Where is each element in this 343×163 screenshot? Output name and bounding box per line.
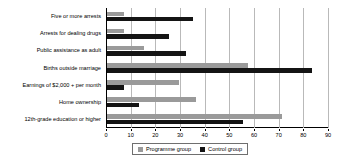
tick-label-0: 0 (96, 131, 116, 139)
bar-control (107, 103, 139, 108)
tick-label-30: 30 (170, 131, 190, 139)
category-label: Births outside marriage (0, 65, 101, 72)
bar-group (106, 77, 328, 94)
bar-control (107, 85, 124, 90)
category-label: 12th-grade education or higher (0, 116, 101, 123)
gridline-90 (328, 8, 329, 128)
category-label: Home ownership (0, 99, 101, 106)
bar-group (106, 25, 328, 42)
category-label: Arrests for dealing drugs (0, 30, 101, 37)
tick-label-50: 50 (219, 131, 239, 139)
legend-item-control: Control group (200, 146, 242, 153)
bar-programme (107, 46, 144, 51)
category-label: Earnings of $2,000 + per month (0, 82, 101, 89)
tick-label-10: 10 (121, 131, 141, 139)
tick-label-70: 70 (269, 131, 289, 139)
category-label: Public assistance as adult (0, 47, 101, 54)
bar-programme (107, 114, 282, 119)
bar-control (107, 120, 243, 125)
bar-group (106, 8, 328, 25)
category-label: Five or more arrests (0, 13, 101, 20)
chart-legend: Programme groupControl group (132, 143, 248, 155)
bar-control (107, 34, 169, 39)
tick-label-80: 80 (293, 131, 313, 139)
x-axis-ticks: 0102030405060708090 (106, 129, 328, 139)
bar-programme (107, 97, 196, 102)
tick-label-20: 20 (145, 131, 165, 139)
bar-programme (107, 29, 124, 34)
bar-group (106, 111, 328, 128)
bar-programme (107, 12, 124, 17)
legend-label: Control group (208, 146, 242, 153)
category-label-column: Five or more arrestsArrests for dealing … (0, 8, 104, 128)
bar-programme (107, 80, 179, 85)
tick-label-60: 60 (244, 131, 264, 139)
legend-swatch-icon (200, 147, 205, 152)
tick-label-40: 40 (195, 131, 215, 139)
bar-group (106, 59, 328, 76)
bar-control (107, 17, 193, 22)
bar-group (106, 94, 328, 111)
bar-control (107, 51, 186, 56)
legend-swatch-icon (138, 147, 143, 152)
tick-label-90: 90 (318, 131, 338, 139)
plot-area (106, 8, 328, 128)
legend-item-programme: Programme group (138, 146, 191, 153)
bar-programme (107, 63, 248, 68)
bar-control (107, 68, 312, 73)
bar-chart: Five or more arrestsArrests for dealing … (0, 0, 343, 163)
legend-label: Programme group (146, 146, 191, 153)
bar-group (106, 42, 328, 59)
